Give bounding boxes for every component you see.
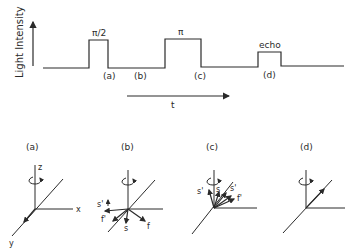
vector-label-s: s	[216, 185, 220, 194]
vector-diagram-d: (d)	[283, 142, 345, 233]
y-axis	[12, 179, 63, 236]
time-marker-a: (a)	[103, 71, 116, 81]
vector-label-s-prime-right: s'	[230, 184, 236, 193]
time-marker-d: (d)	[263, 70, 276, 80]
diagram-label-c: (c)	[206, 142, 218, 152]
diagram-label-a: (a)	[26, 142, 39, 152]
diagram-label-d: (d)	[300, 142, 313, 152]
vector-s-prime-icon	[105, 209, 128, 211]
y-axis-label: y	[9, 239, 14, 248]
vector-label-s-prime-left: s'	[197, 187, 203, 196]
pulse-trace	[43, 39, 344, 68]
figure-canvas: Light Intensity π/2 π echo (a) (b) (c) (…	[0, 0, 356, 251]
diagram-label-b: (b)	[121, 142, 134, 152]
y-axis-label: Light Intensity	[14, 6, 25, 78]
vector-f-prime-icon	[113, 209, 128, 221]
vector-label-f-prime: f'	[237, 194, 242, 203]
vector-f-icon	[128, 209, 145, 221]
vector-label-s: s	[124, 224, 128, 233]
vector-label-f-prime: f'	[101, 215, 106, 224]
pulse-label-pi-half: π/2	[92, 28, 106, 38]
time-marker-b: (b)	[134, 71, 147, 81]
time-marker-c: (c)	[194, 71, 206, 81]
x-axis-label: t	[171, 100, 175, 110]
vector-s-prime-left-icon	[209, 190, 214, 208]
z-axis-label: z	[38, 163, 42, 172]
x-axis-label: x	[76, 205, 81, 214]
vector-diagram-a: (a) z x y	[9, 142, 81, 248]
vector-diagram-c: (c) s' s s' f'	[192, 142, 257, 234]
vector-diagram-b: (b) s' f' s f	[97, 142, 163, 233]
vector-label-s-prime: s'	[97, 200, 103, 209]
vector-label-f: f	[147, 222, 150, 231]
pulse-label-echo: echo	[259, 40, 281, 50]
rotation-arrow-icon	[207, 178, 219, 185]
refocused-vector-icon	[306, 189, 324, 208]
pulse-label-pi: π	[178, 27, 184, 37]
pulse-sequence-plot: Light Intensity π/2 π echo (a) (b) (c) (…	[14, 6, 344, 110]
rotation-arrow-icon	[299, 178, 311, 185]
magnetization-vector-icon	[24, 209, 35, 222]
